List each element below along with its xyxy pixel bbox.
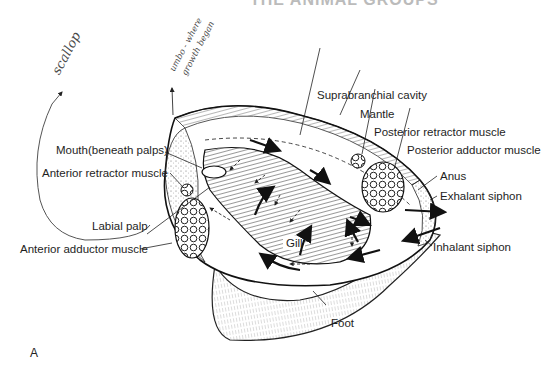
posterior-adductor-muscle-shape: [362, 162, 404, 212]
label-anterior-adductor-muscle: Anterior adductor muscle: [20, 243, 148, 256]
label-anus: Anus: [440, 170, 466, 183]
anterior-retractor-muscle-shape: [181, 184, 193, 196]
labial-palp-shape: [202, 166, 226, 178]
scallop-arrow: [52, 92, 62, 104]
label-posterior-adductor-muscle: Posterior adductor muscle: [407, 144, 541, 157]
label-foot: Foot: [331, 317, 354, 330]
anterior-adductor-muscle-shape: [175, 198, 209, 258]
umbo-arrow: [172, 88, 173, 115]
clam-illustration: [0, 0, 555, 368]
label-anterior-retractor-muscle: Anterior retractor muscle: [42, 167, 168, 180]
label-mantle: Mantle: [360, 108, 395, 121]
label-gill: Gill: [286, 237, 303, 250]
posterior-retractor-muscle-shape: [351, 154, 365, 168]
bivalve-anatomy-diagram: THE ANIMAL GROUPS: [0, 0, 555, 368]
label-posterior-retractor-muscle: Posterior retractor muscle: [374, 126, 506, 139]
panel-letter: A: [30, 346, 38, 360]
label-inhalant-siphon: Inhalant siphon: [433, 241, 511, 254]
label-labial-palp: Labial palp: [92, 220, 148, 233]
label-mouth: Mouth(beneath palps): [56, 144, 168, 157]
label-exhalant-siphon: Exhalant siphon: [440, 190, 522, 203]
label-suprabranchial-cavity: Suprabranchial cavity: [317, 89, 427, 102]
